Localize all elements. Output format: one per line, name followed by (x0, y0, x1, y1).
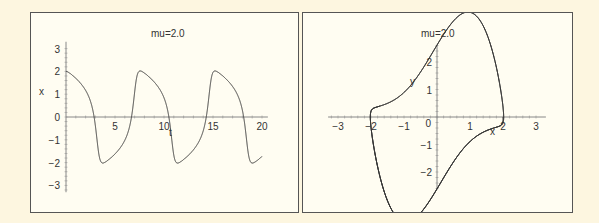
svg-text:−1: −1 (421, 140, 433, 151)
svg-text:3: 3 (54, 44, 60, 55)
y-axis-label: x (39, 86, 44, 97)
svg-text:−3: −3 (49, 180, 61, 191)
svg-text:5: 5 (112, 121, 118, 132)
phase-portrait-plot-panel: mu=2.0 y x −3−2−10123−2−112 (302, 12, 573, 213)
svg-text:1: 1 (426, 85, 432, 96)
svg-text:2: 2 (54, 66, 60, 77)
axes: −3−2−10123−2−112 (328, 46, 546, 189)
time-series-plot: mu=2.0 x t −3−2−101235101520 (31, 13, 298, 212)
svg-text:−2: −2 (421, 167, 433, 178)
svg-text:1: 1 (54, 89, 60, 100)
svg-text:0: 0 (54, 112, 60, 123)
svg-text:3: 3 (533, 121, 539, 132)
svg-text:−2: −2 (49, 158, 61, 169)
svg-text:−1: −1 (398, 121, 410, 132)
svg-text:20: 20 (256, 121, 268, 132)
plot-title: mu=2.0 (151, 28, 185, 39)
svg-text:10: 10 (158, 121, 170, 132)
svg-text:1: 1 (467, 121, 473, 132)
svg-text:−3: −3 (332, 121, 344, 132)
svg-text:15: 15 (207, 121, 219, 132)
svg-text:0: 0 (425, 118, 431, 129)
plot-title: mu=2.0 (421, 28, 455, 39)
axes: −3−2−101235101520 (49, 42, 268, 192)
time-series-plot-panel: mu=2.0 x t −3−2−101235101520 (30, 12, 299, 213)
svg-text:−1: −1 (49, 135, 61, 146)
phase-portrait-plot: mu=2.0 y x −3−2−10123−2−112 (303, 13, 572, 212)
